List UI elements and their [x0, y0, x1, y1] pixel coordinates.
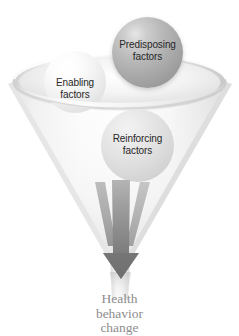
outcome-line-3: change — [0, 321, 239, 336]
outcome-caption: Health behavior change — [0, 292, 239, 336]
sphere-predisposing-factors: Predisposing factors — [112, 17, 183, 88]
funnel-diagram: Reinforcing factors Enabling factors Pre… — [0, 0, 239, 336]
sphere-enabling-factors: Enabling factors — [44, 51, 106, 113]
sphere-predisposing-label: Predisposing factors — [112, 39, 183, 62]
sphere-enabling-label: Enabling factors — [44, 77, 106, 100]
sphere-reinforcing-label: Reinforcing factors — [101, 133, 174, 156]
sphere-reinforcing-factors: Reinforcing factors — [101, 109, 174, 182]
outcome-line-1: Health — [0, 292, 239, 307]
outcome-line-2: behavior — [0, 307, 239, 322]
